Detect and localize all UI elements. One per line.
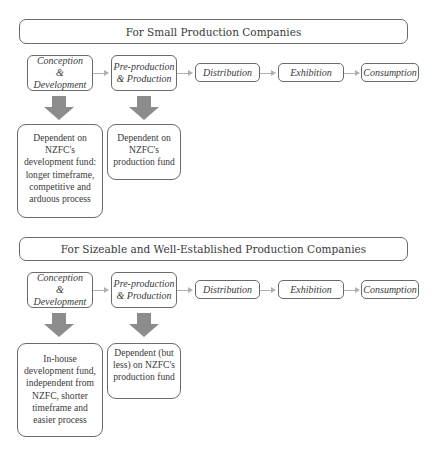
description-development-fund: Dependent on NZFC's development fund: lo… xyxy=(17,124,103,218)
section-title-text: For Small Production Companies xyxy=(126,26,302,38)
stage-label: Distribution xyxy=(203,284,252,296)
stage-preproduction-production: Pre-production & Production xyxy=(111,55,177,91)
stage-label: Pre-production & Production xyxy=(113,278,175,302)
stage-label: Distribution xyxy=(203,67,252,79)
description-inhouse-fund: In-house development fund, independent f… xyxy=(17,343,103,437)
stage-label: Consumption xyxy=(363,67,416,79)
stage-exhibition: Exhibition xyxy=(278,280,344,299)
description-production-fund: Dependent (but less) on NZFC's productio… xyxy=(107,343,181,399)
stage-label: Conception & Development xyxy=(32,272,88,308)
connector-arrowhead-icon xyxy=(355,70,360,76)
connector-arrowhead-icon xyxy=(271,70,276,76)
connector-line xyxy=(344,73,355,74)
section-title-established-companies: For Sizeable and Well-Established Produc… xyxy=(19,237,408,261)
stage-conception-development: Conception & Development xyxy=(27,272,93,308)
stage-label: Exhibition xyxy=(290,284,332,296)
description-production-fund: Dependent on NZFC's production fund xyxy=(107,124,181,180)
section-title-text: For Sizeable and Well-Established Produc… xyxy=(61,243,366,255)
connector-arrowhead-icon xyxy=(188,70,193,76)
description-text: Dependent on NZFC's development fund: lo… xyxy=(18,132,102,205)
stage-preproduction-production: Pre-production & Production xyxy=(111,272,177,308)
down-arrow-icon xyxy=(44,313,74,337)
stage-label: Conception & Development xyxy=(32,55,88,91)
stage-exhibition: Exhibition xyxy=(278,63,344,82)
stage-consumption: Consumption xyxy=(361,63,419,82)
connector-arrowhead-icon xyxy=(355,287,360,293)
down-arrow-icon xyxy=(129,96,159,120)
section-title-small-companies: For Small Production Companies xyxy=(19,19,408,44)
stage-distribution: Distribution xyxy=(195,280,260,299)
stage-label: Consumption xyxy=(363,284,416,296)
stage-consumption: Consumption xyxy=(361,280,419,299)
connector-line xyxy=(344,290,355,291)
connector-arrowhead-icon xyxy=(188,287,193,293)
description-text: Dependent on NZFC's production fund xyxy=(108,132,180,169)
down-arrow-icon xyxy=(44,96,74,120)
connector-arrowhead-icon xyxy=(271,287,276,293)
connector-arrowhead-icon xyxy=(104,287,109,293)
stage-label: Exhibition xyxy=(290,67,332,79)
down-arrow-icon xyxy=(129,313,159,337)
stage-label: Pre-production & Production xyxy=(113,61,175,85)
stage-distribution: Distribution xyxy=(195,63,260,82)
description-text: Dependent (but less) on NZFC's productio… xyxy=(108,347,180,384)
stage-conception-development: Conception & Development xyxy=(27,55,93,91)
connector-arrowhead-icon xyxy=(104,70,109,76)
description-text: In-house development fund, independent f… xyxy=(18,353,102,426)
